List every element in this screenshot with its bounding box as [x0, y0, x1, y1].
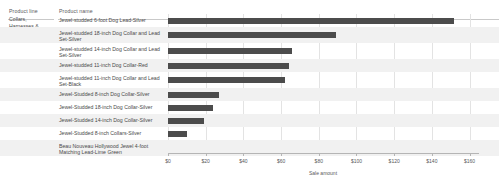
bar[interactable] — [168, 77, 285, 83]
axis-tick — [394, 153, 395, 156]
bar[interactable] — [168, 92, 219, 98]
axis-tick — [206, 153, 207, 156]
bar[interactable] — [168, 63, 289, 69]
product-name-cell: Jewel-studded 11-inch Dog Collar-Red — [59, 62, 165, 69]
product-name-cell: Jewel-Studded 8-inch Collars-Silver — [59, 130, 165, 137]
axis-tick-label: $0 — [165, 158, 171, 164]
bar[interactable] — [168, 105, 213, 111]
table-row[interactable]: Jewel-Studded 14-inch Dog Collar-Silver — [0, 114, 499, 127]
axis-tick — [319, 153, 320, 156]
table-row[interactable]: Jewel-Studded 18-inch Dog Collar-Silver — [0, 101, 499, 114]
axis-tick-label: $100 — [351, 158, 362, 164]
product-name-cell: Jewel-Studded 14-inch Dog Collar-Silver — [59, 117, 165, 124]
bar[interactable] — [168, 18, 454, 24]
product-name-cell: Jewel-Studded 18-inch Dog Collar-Silver — [59, 104, 165, 111]
product-name-cell: Jewel-studded 11-inch Dog Collar and Lea… — [59, 75, 165, 88]
product-name-cell: Jewel-studded 18-inch Dog Collar and Lea… — [59, 30, 165, 43]
table-row[interactable]: Jewel-Studded 8-inch Dog Collar-Silver — [0, 88, 499, 101]
product-name-cell: Jewel-studded 6-foot Dog Lead-Silver — [59, 17, 165, 24]
bar[interactable] — [168, 131, 187, 137]
axis-tick-label: $160 — [464, 158, 475, 164]
bar[interactable] — [168, 118, 204, 124]
sales-bar-chart-report: Product line Product name Collars, Harne… — [0, 0, 499, 184]
x-axis-title: Sale amount — [309, 170, 337, 176]
table-row[interactable]: Jewel-Studded 8-inch Collars-Silver — [0, 127, 499, 140]
axis-tick-label: $40 — [239, 158, 247, 164]
bar[interactable] — [168, 32, 336, 38]
axis-tick — [356, 153, 357, 156]
axis-tick — [470, 153, 471, 156]
axis-tick-label: $80 — [315, 158, 323, 164]
axis-tick-label: $60 — [277, 158, 285, 164]
axis-tick-label: $120 — [389, 158, 400, 164]
product-name-cell: Jewel-studded 14-inch Dog Collar and Lea… — [59, 46, 165, 59]
axis-tick — [243, 153, 244, 156]
axis-tick-label: $140 — [426, 158, 437, 164]
axis-tick — [281, 153, 282, 156]
axis-tick — [432, 153, 433, 156]
product-name-cell: Jewel-Studded 8-inch Dog Collar-Silver — [59, 91, 165, 98]
product-name-cell: Beau Nouveau Hollywood Jewel 4-foot Matc… — [59, 143, 165, 156]
axis-tick-label: $20 — [202, 158, 210, 164]
axis-tick — [168, 153, 169, 156]
bar[interactable] — [168, 48, 292, 54]
